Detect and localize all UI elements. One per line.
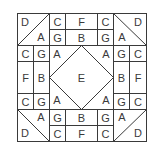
label-B: B bbox=[78, 112, 85, 124]
label-G: G bbox=[117, 96, 126, 108]
label-G: G bbox=[117, 48, 126, 60]
label-C: C bbox=[22, 96, 30, 108]
label-C: C bbox=[102, 16, 110, 28]
label-A: A bbox=[37, 31, 45, 43]
label-F: F bbox=[135, 72, 142, 84]
label-G: G bbox=[37, 48, 46, 60]
label-C: C bbox=[22, 48, 30, 60]
label-G: G bbox=[53, 112, 62, 124]
label-G: G bbox=[101, 32, 110, 44]
label-F: F bbox=[22, 72, 29, 84]
label-G: G bbox=[53, 32, 62, 44]
label-A: A bbox=[118, 31, 126, 43]
label-C: C bbox=[54, 16, 62, 28]
quilt-block-diagram: D A C F C G B G D A C G F B C G A A E A … bbox=[0, 0, 158, 155]
label-A: A bbox=[102, 94, 110, 106]
label-C: C bbox=[134, 48, 142, 60]
label-B: B bbox=[118, 72, 125, 84]
label-G: G bbox=[37, 96, 46, 108]
label-D: D bbox=[21, 127, 29, 139]
label-D: D bbox=[134, 127, 142, 139]
label-A: A bbox=[37, 111, 45, 123]
label-C: C bbox=[54, 128, 62, 140]
label-E: E bbox=[78, 72, 85, 84]
label-A: A bbox=[53, 48, 61, 60]
label-C: C bbox=[134, 96, 142, 108]
label-D: D bbox=[134, 16, 142, 28]
label-C: C bbox=[102, 128, 110, 140]
label-B: B bbox=[78, 32, 85, 44]
label-A: A bbox=[102, 48, 110, 60]
label-G: G bbox=[101, 112, 110, 124]
label-A: A bbox=[118, 111, 126, 123]
label-F: F bbox=[78, 16, 85, 28]
label-A: A bbox=[53, 94, 61, 106]
label-B: B bbox=[38, 72, 45, 84]
label-D: D bbox=[21, 16, 29, 28]
label-F: F bbox=[78, 128, 85, 140]
